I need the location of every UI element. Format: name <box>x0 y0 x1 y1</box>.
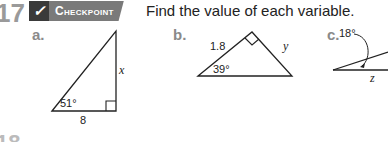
angle-a-label: 51° <box>60 97 77 109</box>
variable-z-label: z <box>369 71 375 85</box>
instruction-text: Find the value of each variable. <box>146 2 354 19</box>
angle-b-label: 39° <box>213 63 230 75</box>
variable-y-label: y <box>282 39 289 53</box>
problem-a-label: a. <box>32 26 45 43</box>
triangle-a <box>52 31 116 111</box>
triangle-b <box>198 32 292 76</box>
side-b-label: 1.8 <box>210 40 225 52</box>
problem-c-label: c. <box>327 26 340 43</box>
side-a-label: 8 <box>80 114 86 126</box>
variable-x-label: x <box>118 63 125 77</box>
next-exercise-number: 18 <box>0 130 20 142</box>
problem-a-figure <box>0 0 388 142</box>
exercise-number: 17 <box>0 0 25 29</box>
angle-diagram-c <box>333 34 388 70</box>
checkpoint-label: Checkpoint <box>49 1 124 21</box>
checkpoint-badge: ✓ Checkpoint <box>29 1 124 21</box>
problem-b-figure: 1.8 39° y <box>0 0 388 142</box>
problem-c-figure: 18° z <box>0 0 388 142</box>
problem-b-label: b. <box>173 26 186 43</box>
angle-c-label: 18° <box>339 27 356 39</box>
checkmark-icon: ✓ <box>29 1 49 21</box>
